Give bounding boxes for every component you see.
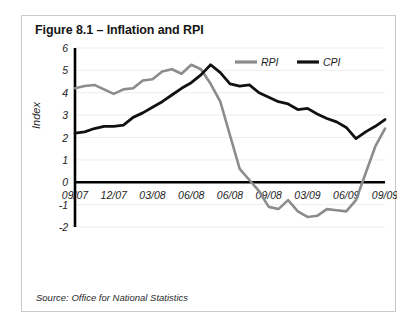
y-axis-label: Index: [30, 102, 42, 129]
line-chart: 6543210-1-2 09/0712/0703/0806/0806/0809/…: [22, 40, 397, 292]
chart-legend: RPICPI: [235, 56, 341, 68]
legend-label-cpi: CPI: [323, 56, 341, 68]
y-tick-label: 3: [62, 109, 68, 121]
x-tick-label: 09/07: [62, 189, 89, 201]
x-tick-label: 06/08: [178, 189, 204, 201]
series-line-cpi: [75, 65, 385, 139]
x-tick-label: 03/09: [294, 189, 320, 201]
x-axis-tick-labels: 09/0712/0703/0806/0806/0809/0803/0906/09…: [62, 189, 397, 201]
figure-card: Figure 8.1 – Inflation and RPI 6543210-1…: [21, 15, 396, 312]
y-tick-label: 1: [62, 154, 68, 166]
y-tick-label: 4: [62, 87, 68, 99]
x-tick-label: 06/08: [217, 189, 243, 201]
x-tick-label: 09/09: [372, 189, 397, 201]
y-tick-label: 0: [62, 176, 68, 188]
x-tick-label: 03/08: [139, 189, 165, 201]
chart-plot-area: 6543210-1-2 09/0712/0703/0806/0806/0809/…: [22, 40, 397, 292]
y-axis-title: Index: [30, 102, 42, 129]
y-tick-label: 6: [62, 42, 68, 54]
y-tick-label: 5: [62, 64, 68, 76]
y-axis-tick-labels: 6543210-1-2: [59, 42, 69, 233]
legend-label-rpi: RPI: [261, 56, 279, 68]
source-caption: Source: Office for National Statistics: [36, 292, 188, 303]
page-title: Figure 8.1 – Inflation and RPI: [35, 23, 204, 37]
y-tick-label: 2: [61, 132, 68, 144]
x-tick-label: 12/07: [101, 189, 128, 201]
y-tick-label: -2: [59, 221, 68, 233]
